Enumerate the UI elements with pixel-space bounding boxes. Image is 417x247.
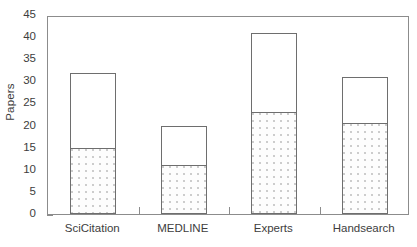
x-axis-category-label: SciCitation [47,222,138,234]
y-tick-label: 40 [6,30,36,42]
y-tick-label: 10 [6,163,36,175]
x-tick-mark [139,207,140,214]
y-tick-label: 5 [6,185,36,197]
bar-segment-lower [70,148,116,214]
bar-segment-upper [70,73,116,148]
x-tick-mark [229,207,230,214]
bar-segment-lower [342,123,388,214]
x-axis-category-label: Experts [228,222,319,234]
bar-segment-upper [251,33,297,113]
y-tick-label: 45 [6,8,36,20]
bar [342,77,388,214]
y-tick-label: 0 [6,207,36,219]
bar [161,126,207,214]
x-axis-category-label: MEDLINE [138,222,229,234]
bar-segment-lower [251,112,297,214]
bar-segment-upper [342,77,388,123]
x-tick-mark [320,207,321,214]
plot-area [47,16,409,215]
y-tick-label: 15 [6,141,36,153]
y-tick-label: 30 [6,74,36,86]
x-axis-category-label: Handsearch [319,222,410,234]
bar [70,73,116,215]
bar-segment-lower [161,165,207,214]
bar-segment-upper [161,126,207,166]
y-tick-mark [47,215,53,216]
y-tick-label: 25 [6,96,36,108]
y-tick-label: 35 [6,52,36,64]
bar [251,33,297,214]
bar-chart: Papers 051015202530354045 SciCitationMED… [0,0,417,247]
y-tick-label: 20 [6,119,36,131]
